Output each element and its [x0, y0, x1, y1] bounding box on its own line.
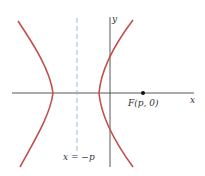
- focus-label: F(p, 0): [127, 98, 159, 108]
- directrix-label: x = −p: [63, 152, 95, 162]
- y-axis-label: y: [111, 14, 118, 24]
- hyperbola-right-branch: [99, 20, 133, 167]
- focus-point: [141, 91, 145, 95]
- hyperbola-left-branch: [18, 21, 53, 167]
- hyperbola-diagram: x y F(p, 0) x = −p: [0, 0, 205, 176]
- x-axis-label: x: [190, 95, 195, 105]
